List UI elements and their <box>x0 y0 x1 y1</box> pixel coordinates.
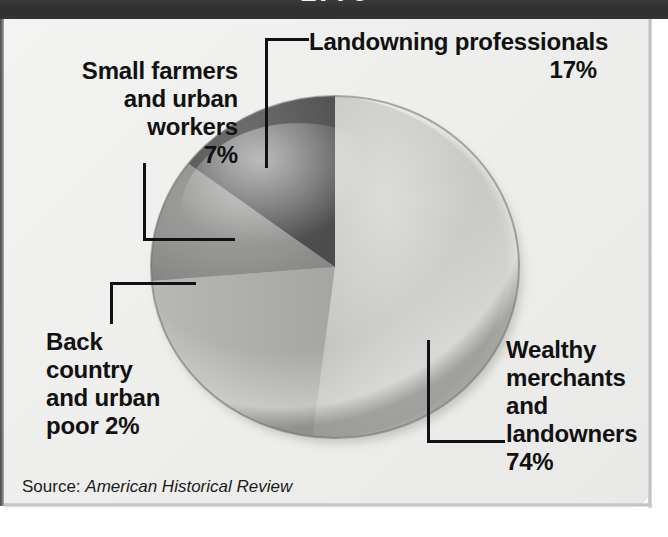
leader-small-farmers-vertical <box>143 163 146 241</box>
label-wealthy-line1: Wealthy <box>506 336 666 364</box>
panel-bottom-edge <box>4 503 652 507</box>
label-wealthy-line4: landowners <box>506 420 666 448</box>
label-wealthy-percent: 74% <box>506 448 666 476</box>
label-wealthy-line2: merchants <box>506 364 666 392</box>
label-small-farmers-percent: 7% <box>58 141 238 169</box>
leader-landowning-vertical <box>265 38 268 168</box>
label-back-country-line4: poor 2% <box>46 412 224 440</box>
label-landowning-text: Landowning professionals <box>309 28 608 55</box>
cut-off-title: 1775 <box>0 0 668 8</box>
leader-back-country-horizontal <box>110 282 196 285</box>
source-journal: American Historical Review <box>85 477 292 496</box>
leader-wealthy-vertical <box>427 340 430 442</box>
leader-wealthy-horizontal <box>427 440 505 443</box>
label-small-farmers-line1: Small farmers <box>58 57 238 85</box>
pie-chart-figure: 1775 <box>0 0 668 537</box>
label-back-country: Back country and urban poor 2% <box>46 328 224 440</box>
label-wealthy-line3: and <box>506 392 666 420</box>
source-line: Source: American Historical Review <box>22 477 292 497</box>
label-back-country-line3: and urban <box>46 384 224 412</box>
label-back-country-line1: Back <box>46 328 224 356</box>
label-small-farmers: Small farmers and urban workers 7% <box>58 57 238 169</box>
title-bar: 1775 <box>0 0 668 19</box>
label-small-farmers-line2: and urban <box>58 85 238 113</box>
leader-small-farmers-horizontal <box>143 238 235 241</box>
leader-landowning-horizontal <box>265 38 309 41</box>
label-landowning-percent: 17% <box>309 56 597 84</box>
source-prefix: Source: <box>22 477 81 496</box>
label-small-farmers-line3: workers <box>58 113 238 141</box>
label-back-country-line2: country <box>46 356 224 384</box>
label-landowning-professionals: Landowning professionals 17% <box>309 28 639 84</box>
label-wealthy-merchants: Wealthy merchants and landowners 74% <box>506 336 666 476</box>
leader-back-country-vertical <box>110 282 113 324</box>
